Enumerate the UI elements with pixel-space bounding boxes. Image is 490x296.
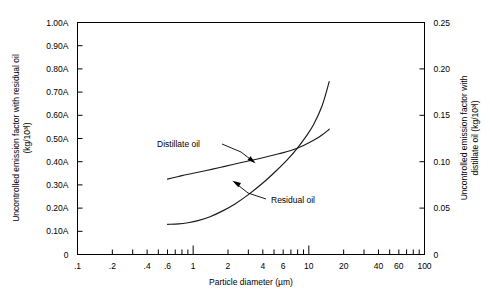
y-tick-label-right: 0.20 <box>434 64 451 74</box>
x-tick-label: 10 <box>304 261 314 271</box>
x-axis-labels: .1.2.4.6124610204060100 <box>74 261 432 271</box>
y-tick-label-left: 0.10A <box>46 226 69 236</box>
y-tick-label-left: 0 <box>64 250 69 260</box>
x-axis-ticks <box>78 246 425 255</box>
y-axis-right-title: Uncontrolled emission factor with distil… <box>459 75 480 200</box>
x-axis-title: Particle diameter (µm) <box>209 277 293 287</box>
chart-svg: 00.10A0.20A0.30A0.40A0.50A0.60A0.70A0.80… <box>0 0 490 296</box>
chart-figure: 00.10A0.20A0.30A0.40A0.50A0.60A0.70A0.80… <box>0 0 490 296</box>
y-axis-left-ticks <box>78 46 83 232</box>
y-axis-right-ticks <box>420 69 425 208</box>
y-tick-label-left: 0.30A <box>46 180 69 190</box>
x-tick-label: 20 <box>339 261 349 271</box>
y-tick-label-right: 0 <box>434 250 439 260</box>
y-tick-label-left: 0.70A <box>46 87 69 97</box>
annotation-label-residual-oil: Residual oil <box>271 195 315 205</box>
x-tick-label: .1 <box>74 261 81 271</box>
x-tick-label: 1 <box>191 261 196 271</box>
y-axis-left-title-line2: (kg/10³l) <box>22 122 32 153</box>
y-tick-label-left: 0.20A <box>46 203 69 213</box>
x-tick-label: 60 <box>394 261 404 271</box>
y-tick-label-right: 0.25 <box>434 18 451 28</box>
annotation-residual-oil: Residual oil <box>232 181 315 205</box>
y-axis-left-title-line1: Uncontrolled emission factor with residu… <box>11 54 21 222</box>
x-tick-label: 40 <box>374 261 384 271</box>
x-tick-label: 100 <box>417 261 431 271</box>
y-tick-label-left: 0.60A <box>46 110 69 120</box>
series-line-distillate-oil <box>168 129 330 179</box>
annotation-label-distillate-oil: Distillate oil <box>157 139 200 149</box>
y-tick-label-right: 0.10 <box>434 157 451 167</box>
y-tick-label-left: 0.90A <box>46 41 69 51</box>
y-tick-label-right: 0.15 <box>434 110 451 120</box>
annotation-distillate-oil: Distillate oil <box>157 139 256 163</box>
y-tick-label-left: 0.80A <box>46 64 69 74</box>
x-tick-label: .2 <box>109 261 116 271</box>
y-tick-label-left: 0.40A <box>46 157 69 167</box>
y-axis-left-labels: 00.10A0.20A0.30A0.40A0.50A0.60A0.70A0.80… <box>46 18 69 260</box>
x-tick-label: .4 <box>144 261 151 271</box>
x-tick-label: .6 <box>164 261 171 271</box>
plot-frame <box>78 23 425 255</box>
y-axis-right-title-line1: Uncontrolled emission factor with <box>459 75 469 200</box>
y-tick-label-left: 0.50A <box>46 134 69 144</box>
y-tick-label-right: 0.05 <box>434 203 451 213</box>
x-tick-label: 6 <box>281 261 286 271</box>
y-axis-left-title: Uncontrolled emission factor with residu… <box>11 54 32 222</box>
x-tick-label: 2 <box>226 261 231 271</box>
y-tick-label-left: 1.00A <box>46 18 69 28</box>
y-axis-right-title-line2: distillate oil (kg/10³l) <box>470 100 480 175</box>
y-axis-right-labels: 00.050.100.150.200.25 <box>434 18 451 260</box>
x-tick-label: 4 <box>260 261 265 271</box>
